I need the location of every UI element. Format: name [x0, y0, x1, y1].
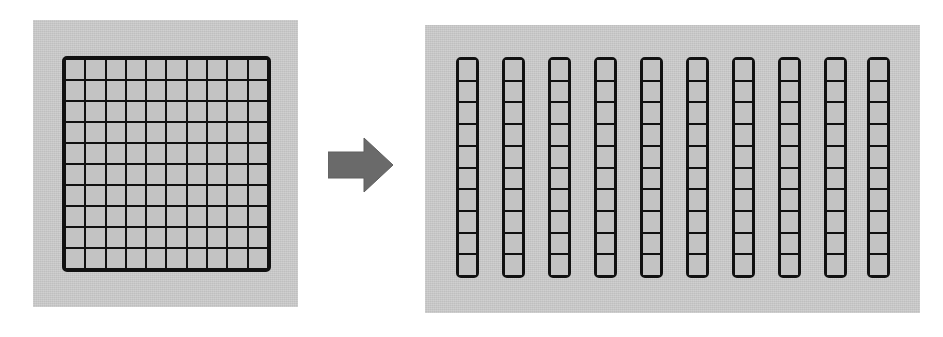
unit-cell: [65, 206, 85, 227]
unit-cell: [735, 168, 752, 190]
unit-cell: [505, 168, 522, 190]
unit-cell: [227, 101, 247, 122]
unit-cell: [85, 206, 105, 227]
unit-cell: [459, 81, 476, 103]
unit-cell: [207, 164, 227, 185]
unit-cell: [248, 122, 268, 143]
unit-cell: [227, 122, 247, 143]
unit-cell: [85, 101, 105, 122]
unit-cell: [126, 80, 146, 101]
unit-cell: [227, 227, 247, 248]
unit-cell: [870, 60, 887, 81]
unit-cell: [106, 143, 126, 164]
unit-cell: [166, 185, 186, 206]
unit-cell: [146, 101, 166, 122]
unit-cell: [227, 59, 247, 80]
unit-cell: [207, 227, 227, 248]
figure-canvas: [0, 0, 943, 337]
unit-cell: [781, 189, 798, 211]
unit-cell: [248, 227, 268, 248]
unit-cell: [870, 211, 887, 233]
unit-cell: [505, 189, 522, 211]
right-arrow-icon: [328, 137, 393, 193]
unit-cell: [106, 122, 126, 143]
unit-cell: [689, 81, 706, 103]
unit-cell: [146, 122, 166, 143]
unit-cell: [827, 233, 844, 255]
unit-cell: [551, 81, 568, 103]
unit-cell: [459, 124, 476, 146]
unit-cell: [227, 80, 247, 101]
unit-cell: [106, 101, 126, 122]
unit-cell: [781, 254, 798, 275]
unit-cell: [146, 143, 166, 164]
unit-cell: [735, 189, 752, 211]
unit-cell: [166, 164, 186, 185]
unit-cell: [65, 227, 85, 248]
unit-cell: [827, 254, 844, 275]
unit-cell: [735, 254, 752, 275]
unit-cell: [505, 60, 522, 81]
unit-cell: [870, 233, 887, 255]
unit-cell: [227, 206, 247, 227]
unit-cell: [146, 164, 166, 185]
tens-rods-group: [456, 57, 890, 278]
unit-cell: [248, 185, 268, 206]
unit-cell: [146, 206, 166, 227]
ten-rod: [594, 57, 617, 278]
unit-cell: [85, 80, 105, 101]
unit-cell: [551, 189, 568, 211]
unit-cell: [166, 227, 186, 248]
unit-cell: [827, 81, 844, 103]
unit-cell: [870, 102, 887, 124]
unit-cell: [643, 102, 660, 124]
unit-cell: [106, 185, 126, 206]
unit-cell: [207, 206, 227, 227]
unit-cell: [597, 60, 614, 81]
ten-rod: [640, 57, 663, 278]
unit-cell: [459, 254, 476, 275]
unit-cell: [827, 211, 844, 233]
unit-cell: [166, 248, 186, 269]
unit-cell: [187, 101, 207, 122]
unit-cell: [187, 143, 207, 164]
unit-cell: [870, 81, 887, 103]
unit-cell: [248, 101, 268, 122]
unit-cell: [65, 185, 85, 206]
unit-cell: [166, 143, 186, 164]
unit-cell: [505, 124, 522, 146]
unit-cell: [187, 227, 207, 248]
unit-cell: [597, 168, 614, 190]
unit-cell: [597, 81, 614, 103]
unit-cell: [106, 206, 126, 227]
unit-cell: [827, 189, 844, 211]
unit-cell: [827, 60, 844, 81]
unit-cell: [505, 146, 522, 168]
unit-cell: [106, 164, 126, 185]
ten-rod: [686, 57, 709, 278]
unit-cell: [827, 124, 844, 146]
unit-cell: [187, 80, 207, 101]
unit-cell: [643, 168, 660, 190]
unit-cell: [146, 80, 166, 101]
unit-cell: [689, 124, 706, 146]
unit-cell: [187, 122, 207, 143]
unit-cell: [735, 124, 752, 146]
unit-cell: [827, 146, 844, 168]
unit-cell: [106, 227, 126, 248]
unit-cell: [459, 146, 476, 168]
unit-cell: [689, 254, 706, 275]
unit-cell: [126, 143, 146, 164]
unit-cell: [689, 211, 706, 233]
unit-cell: [689, 102, 706, 124]
unit-cell: [65, 122, 85, 143]
unit-cell: [870, 254, 887, 275]
unit-cell: [126, 206, 146, 227]
unit-cell: [643, 211, 660, 233]
unit-cell: [597, 233, 614, 255]
unit-cell: [146, 248, 166, 269]
unit-cell: [85, 248, 105, 269]
unit-cell: [207, 143, 227, 164]
unit-cell: [85, 122, 105, 143]
unit-cell: [551, 146, 568, 168]
